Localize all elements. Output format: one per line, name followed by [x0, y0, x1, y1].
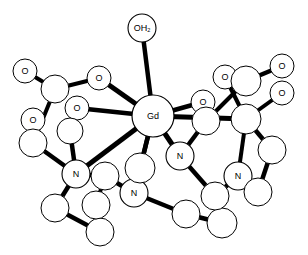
atom-o6: O	[270, 54, 294, 78]
atom-circle-c16	[192, 107, 220, 135]
atom-circle-c11	[201, 182, 229, 210]
atom-label-o4: O	[29, 115, 36, 125]
atom-c14	[231, 104, 261, 134]
atom-o2: O	[87, 66, 111, 90]
atom-n3: N	[166, 142, 194, 170]
atom-circle-c3	[19, 129, 47, 157]
atom-c3	[19, 129, 47, 157]
atom-n2: N	[120, 179, 148, 207]
atom-layer: GdOH2OOOOOOOONNNN	[13, 14, 294, 246]
atom-circle-c13	[258, 136, 286, 164]
atom-o3: O	[65, 96, 89, 120]
atom-label-o5: O	[221, 72, 228, 82]
atom-c13	[258, 136, 286, 164]
atom-o4: O	[21, 108, 45, 132]
figure-canvas: GdOH2OOOOOOOONNNN	[0, 0, 308, 255]
atom-c9	[172, 200, 200, 228]
atom-c1	[41, 75, 69, 103]
atom-label-gd: Gd	[147, 111, 159, 121]
atom-label-n2: N	[131, 188, 138, 198]
atom-label-o7: O	[278, 88, 285, 98]
atom-c4	[41, 194, 69, 222]
atom-c5	[86, 218, 114, 246]
atom-label-n4: N	[235, 171, 242, 181]
atom-circle-c12	[244, 178, 272, 206]
atom-c7	[91, 162, 119, 190]
atom-circle-c8	[125, 153, 155, 183]
atom-c11	[201, 182, 229, 210]
atom-c12	[244, 178, 272, 206]
atom-label-o6: O	[278, 61, 285, 71]
atom-c15	[231, 66, 261, 96]
atom-circle-c5	[86, 218, 114, 246]
atom-circle-c7	[91, 162, 119, 190]
atom-circle-c9	[172, 200, 200, 228]
atom-c8	[125, 153, 155, 183]
atom-circle-c15	[231, 66, 261, 96]
atom-circle-c1	[41, 75, 69, 103]
atom-c10	[207, 208, 237, 238]
atom-c6	[82, 191, 110, 219]
atom-circle-c14	[231, 104, 261, 134]
atom-label-o1: O	[21, 66, 28, 76]
atom-o7: O	[270, 81, 294, 105]
atom-c2	[57, 118, 83, 144]
atom-c16	[192, 107, 220, 135]
atom-circle-c2	[57, 118, 83, 144]
atom-label-o3: O	[73, 103, 80, 113]
atom-gd: Gd	[132, 95, 174, 137]
atom-circle-c10	[207, 208, 237, 238]
atom-ow: OH2	[128, 14, 156, 42]
atom-o1: O	[13, 59, 37, 83]
atom-label-n1: N	[73, 169, 80, 179]
atom-label-o2: O	[95, 73, 102, 83]
molecular-structure-diagram: GdOH2OOOOOOOONNNN	[0, 0, 308, 255]
atom-circle-c4	[41, 194, 69, 222]
atom-label-n3: N	[177, 151, 184, 161]
atom-n1: N	[62, 160, 90, 188]
atom-label-o8: O	[199, 97, 206, 107]
atom-circle-c6	[82, 191, 110, 219]
